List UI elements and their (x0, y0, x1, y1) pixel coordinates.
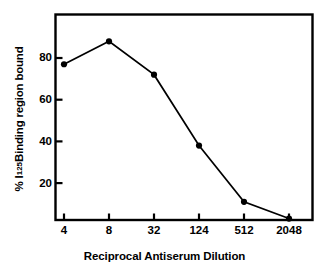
x-axis-title: Reciprocal Antiserum Dilution (0, 250, 329, 262)
data-point-512 (241, 199, 247, 205)
data-point-4 (61, 61, 67, 67)
data-point-32 (151, 72, 157, 78)
x-tick-label-4: 4 (61, 225, 67, 237)
x-tick-label-124: 124 (189, 225, 208, 237)
x-axis-tick-labels: 4 8 32 124 512 2048 (0, 225, 329, 241)
chart-figure: % I125Binding region bound 80 60 40 20 (0, 0, 329, 277)
x-tick-label-2048: 2048 (276, 225, 302, 237)
plot-frame (56, 15, 313, 221)
x-tick-label-8: 8 (106, 225, 112, 237)
x-tick-label-32: 32 (148, 225, 161, 237)
data-point-8 (106, 38, 112, 44)
x-tick-label-512: 512 (234, 225, 253, 237)
data-point-124 (196, 142, 202, 148)
data-point-2048 (286, 215, 292, 221)
